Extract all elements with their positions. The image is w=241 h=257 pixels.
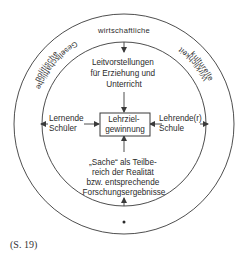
leitvorstellungen-text: Leitvorstellungen für Erziehung und Unte…: [91, 58, 158, 89]
sache-realitaet-text: „Sache“ als Teilbe- reich der Realität b…: [83, 158, 166, 197]
lehrziel-diagram: wirtschaftliche politische kulturelle Ge…: [0, 0, 241, 257]
lehrzielgewinnung-text: Lehrziel- gewinnung: [105, 115, 145, 134]
page-caption: (S. 19): [10, 239, 37, 251]
center-dot: [123, 221, 126, 224]
lehrende-schule-text: Lehrende(r) Schule: [159, 114, 204, 133]
lernende-schueler-text: Lernende Schüler: [49, 114, 86, 133]
ring-label-top: wirtschaftliche: [97, 26, 150, 35]
